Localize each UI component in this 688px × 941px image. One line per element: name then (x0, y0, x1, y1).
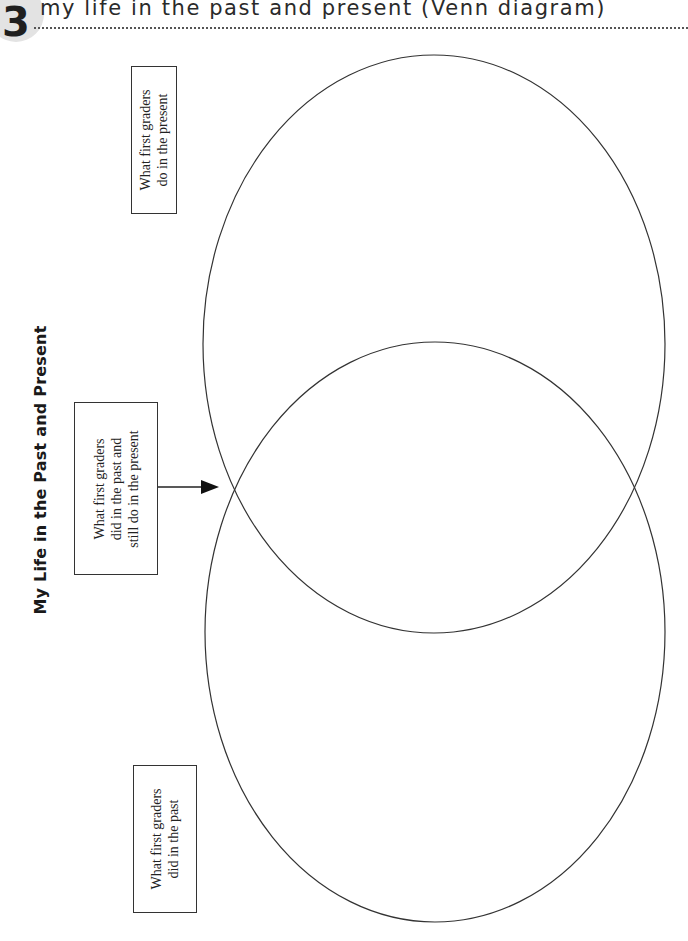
present-circle (203, 55, 665, 633)
label-present-line-1: What first graders (137, 89, 154, 190)
past-circle (205, 342, 665, 922)
label-both: What first graders did in the past and s… (74, 402, 158, 575)
label-past-line-2: did in the past (165, 788, 182, 889)
label-both-line-2: did in the past and (108, 430, 125, 547)
label-past-line-1: What first graders (148, 788, 165, 889)
label-both-line-3: still do in the present (125, 430, 142, 547)
arrow-head-icon (201, 480, 219, 494)
label-both-line-1: What first graders (91, 430, 108, 547)
label-past: What first graders did in the past (133, 765, 197, 913)
label-present-line-2: do in the present (154, 89, 171, 190)
diagram-title: My Life in the Past and Present (31, 325, 50, 614)
label-present: What first graders do in the present (131, 66, 177, 214)
